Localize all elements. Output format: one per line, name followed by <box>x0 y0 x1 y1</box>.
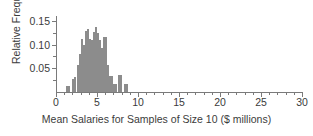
x-tick-minor <box>72 92 73 95</box>
x-tick-minor <box>277 92 278 95</box>
y-tick-label: 0.10 <box>30 40 50 50</box>
x-tick-minor <box>253 92 254 95</box>
x-tick-minor <box>294 92 295 95</box>
x-tick-label: 20 <box>214 96 226 108</box>
x-tick-label: 15 <box>173 96 185 108</box>
histogram-bar <box>68 86 70 92</box>
y-tick-label: 0.05 <box>30 63 50 73</box>
x-axis-title: Mean Salaries for Samples of Size 10 ($ … <box>0 113 313 126</box>
plot-area <box>56 16 302 92</box>
x-tick-minor <box>105 92 106 95</box>
x-tick-label: 30 <box>296 96 308 108</box>
histogram-bar <box>126 84 128 92</box>
x-tick-minor <box>228 92 229 95</box>
x-tick-minor <box>171 92 172 95</box>
x-tick-label: 25 <box>255 96 267 108</box>
x-tick-minor <box>269 92 270 95</box>
x-tick-minor <box>64 92 65 95</box>
x-tick-minor <box>195 92 196 95</box>
x-tick-label: 0 <box>53 96 59 108</box>
histogram-bars <box>56 16 302 92</box>
x-tick-minor <box>212 92 213 95</box>
x-tick-minor <box>236 92 237 95</box>
x-tick-label: 10 <box>132 96 144 108</box>
x-tick-minor <box>89 92 90 95</box>
x-tick-minor <box>81 92 82 95</box>
histogram-figure: Relative Frequency 0.050.100.15 05101520… <box>0 0 313 136</box>
x-tick-minor <box>154 92 155 95</box>
x-tick-minor <box>163 92 164 95</box>
x-tick-minor <box>187 92 188 95</box>
x-tick-minor <box>130 92 131 95</box>
histogram-bar <box>120 75 122 92</box>
x-axis-tick-labels: 051015202530 <box>56 96 306 110</box>
x-tick-minor <box>204 92 205 95</box>
x-tick-minor <box>245 92 246 95</box>
y-tick-label: 0.15 <box>30 16 50 26</box>
x-tick-label: 5 <box>94 96 100 108</box>
x-tick-minor <box>113 92 114 95</box>
x-tick-minor <box>122 92 123 95</box>
x-tick-minor <box>146 92 147 95</box>
x-tick-minor <box>286 92 287 95</box>
